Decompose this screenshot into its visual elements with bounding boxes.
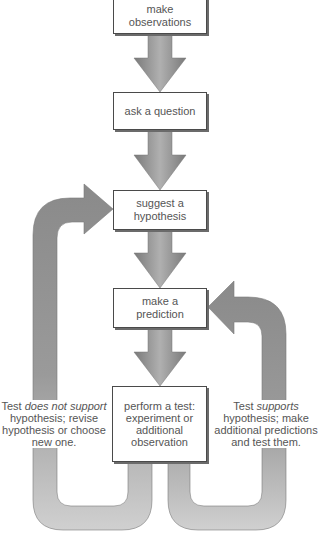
step-suggest-hypothesis: suggest a hypothesis bbox=[113, 190, 207, 230]
down-arrow-icon bbox=[134, 34, 186, 92]
step-label: hypothesis bbox=[134, 210, 187, 223]
step-label: prediction bbox=[136, 308, 184, 321]
step-label: perform a test: bbox=[124, 400, 195, 412]
step-label: ask a question bbox=[125, 105, 196, 118]
step-make-observations: make observations bbox=[113, 0, 207, 34]
down-arrow-icon bbox=[134, 130, 186, 190]
step-label: make bbox=[129, 3, 191, 16]
loop-arrow-left-icon bbox=[33, 184, 152, 530]
step-label: observations bbox=[129, 16, 191, 29]
step-perform-test: perform a test: experiment or additional… bbox=[112, 386, 207, 462]
emphasis-text: supports bbox=[257, 400, 299, 412]
note-test-supports: Test supports hypothesis; make additiona… bbox=[212, 400, 320, 448]
step-label: make a bbox=[136, 295, 184, 308]
step-make-prediction: make a prediction bbox=[113, 288, 207, 328]
step-ask-question: ask a question bbox=[113, 92, 207, 130]
step-label: additional bbox=[124, 424, 195, 436]
down-arrow-icon bbox=[134, 230, 186, 288]
note-test-does-not-support: Test does not support hypothesis; revise… bbox=[0, 400, 108, 448]
down-arrow-icon bbox=[134, 328, 186, 386]
step-label: suggest a bbox=[134, 197, 187, 210]
step-label: observation bbox=[124, 436, 195, 448]
emphasis-text: does not support bbox=[25, 400, 107, 412]
step-label: experiment or bbox=[124, 412, 195, 424]
